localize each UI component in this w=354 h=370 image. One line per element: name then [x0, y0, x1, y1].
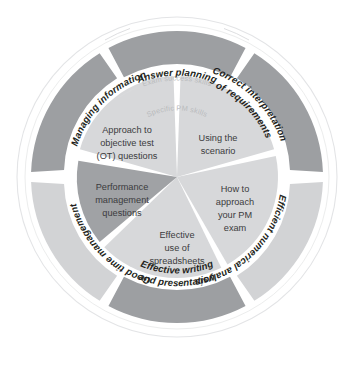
- exam-skills-wheel-diagram: Exam success skills Specific PM skills A…: [0, 0, 354, 370]
- inner-label-line: (OT) questions: [97, 151, 158, 161]
- inner-label-line: Performance: [96, 182, 149, 192]
- inner-label-line: questions: [102, 208, 142, 218]
- inner-label-approach-to-ot-questions: Approach to objective test (OT) question…: [97, 125, 158, 161]
- inner-label-line: approach: [216, 197, 254, 207]
- inner-label-line: management: [95, 195, 149, 205]
- inner-label-line: Using the: [199, 133, 238, 143]
- inner-label-line: scenario: [201, 146, 236, 156]
- inner-label-line: use of: [164, 243, 189, 253]
- inner-label-line: Approach to: [102, 125, 152, 135]
- inner-label-line: your PM: [218, 210, 252, 220]
- inner-label-line: exam: [224, 223, 247, 233]
- inner-label-performance-management-questions: Performance management questions: [95, 182, 149, 218]
- inner-label-line: Effective: [159, 230, 194, 240]
- inner-label-line: spreadsheets: [149, 256, 205, 266]
- inner-label-line: How to: [221, 184, 250, 194]
- wheel-svg: Exam success skills Specific PM skills A…: [0, 0, 354, 370]
- inner-label-line: objective test: [100, 138, 154, 148]
